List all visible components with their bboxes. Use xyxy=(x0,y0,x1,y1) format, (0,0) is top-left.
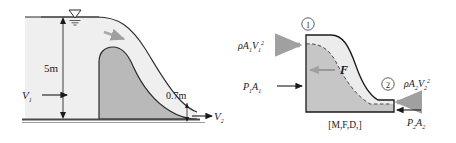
figure-container: 5m V1 0.7m V2 xyxy=(0,0,456,143)
station-2-marker: 2 xyxy=(382,78,394,90)
left-spillway-diagram: 5m V1 0.7m V2 xyxy=(22,10,224,124)
upstream-depth-label: 5m xyxy=(44,62,59,74)
fbd-caption: [M,F,D,] xyxy=(328,120,361,130)
downstream-velocity-label: V2 xyxy=(214,110,224,124)
pressure-out-label: P2A2 xyxy=(406,117,425,130)
station-1-marker: 1 xyxy=(302,18,314,30)
downstream-depth-label: 0.7m xyxy=(166,90,187,101)
momentum-in-label: ρA1V12 xyxy=(237,40,264,53)
figure-svg: 5m V1 0.7m V2 xyxy=(0,0,456,143)
svg-text:1: 1 xyxy=(306,21,310,30)
reaction-force-label: F xyxy=(339,63,348,77)
svg-text:2: 2 xyxy=(386,81,390,90)
momentum-out-label: ρA2V22 xyxy=(403,78,430,91)
right-fbd-diagram: 1 2 ρA1V12 P1A1 F ρA2V22 xyxy=(237,18,430,130)
pressure-in-label: P1A1 xyxy=(242,81,261,94)
